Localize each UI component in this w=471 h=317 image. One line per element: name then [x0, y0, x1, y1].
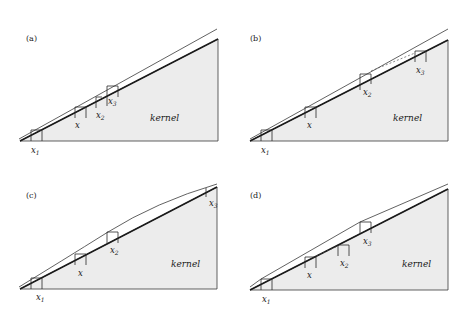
panel-label: (d) [250, 191, 261, 200]
kernel-label: kernel [402, 259, 431, 269]
kernel-label: kernel [171, 259, 200, 269]
kernel-label: kernel [393, 113, 422, 123]
panel-b: (b) x1 x x2 x3 kernel [250, 29, 448, 156]
kernel-label: kernel [150, 113, 179, 123]
point-label-x1: x1 [36, 292, 45, 303]
panel-a: (a) x1 x x2 x3 kernel [19, 29, 218, 156]
point-label-x: x [307, 270, 312, 280]
panel-c: (c) x1 x x2 x3 kernel [19, 184, 218, 303]
point-label-x: x [307, 120, 312, 130]
point-label-x1: x1 [262, 294, 271, 305]
kernel-diagram-figure: (a) x1 x x2 x3 kernel (b) x1 x x2 x3 ker… [0, 0, 471, 317]
point-label-x1: x1 [261, 145, 270, 156]
panel-d: (d) x1 x x2 x3 kernel [250, 184, 448, 305]
panel-label: (c) [26, 191, 37, 200]
panel-label: (b) [250, 34, 261, 43]
point-label-x1: x1 [31, 145, 40, 156]
panel-label: (a) [26, 34, 37, 43]
point-label-x: x [78, 268, 83, 278]
point-label-x: x [75, 120, 80, 130]
